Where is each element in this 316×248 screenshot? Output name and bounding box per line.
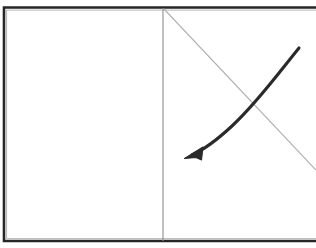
paper-background bbox=[0, 0, 316, 248]
line-drawing-figure bbox=[0, 0, 316, 248]
diagram-canvas bbox=[0, 0, 316, 248]
